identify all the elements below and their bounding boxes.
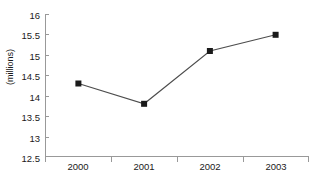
data-point-marker: [273, 32, 279, 38]
plot-area: [0, 0, 320, 182]
line-chart: (millions) 16 15.5 15 14.5 14 13.5 13 12…: [0, 0, 320, 182]
data-line-series-1: [78, 35, 275, 104]
x-axis-ticks: [46, 157, 309, 162]
data-point-marker: [207, 48, 213, 54]
data-point-marker: [141, 101, 147, 107]
data-point-markers: [75, 32, 278, 107]
data-point-marker: [75, 81, 81, 87]
